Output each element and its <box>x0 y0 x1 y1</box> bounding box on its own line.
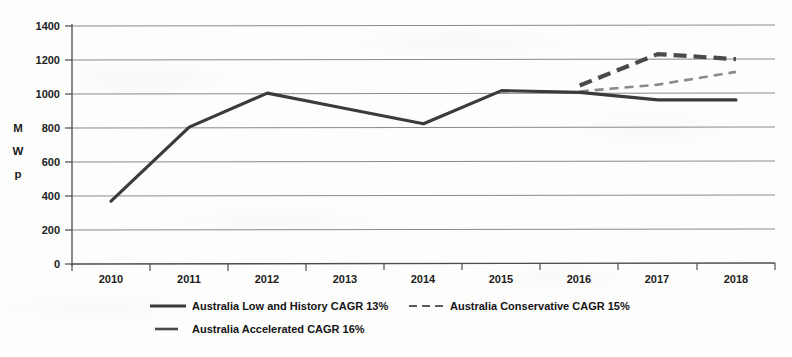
legend-label-australia-conservative[interactable]: Australia Conservative CAGR 15% <box>450 300 630 312</box>
x-tick-label-2011: 2011 <box>177 273 201 285</box>
y-tick-label-600: 600 <box>42 156 60 168</box>
chart-page: 1400 1200 1000 800 600 400 200 0 M W p <box>0 0 792 357</box>
y-axis-title-char-w: W <box>13 145 24 157</box>
x-tick-label-2010: 2010 <box>99 273 123 285</box>
x-axis-tick-labels: 2010 2011 2012 2013 2014 2015 2016 2017 … <box>99 273 748 285</box>
gridline-200 <box>72 229 775 230</box>
legend-label-australia-low-and-history[interactable]: Australia Low and History CAGR 13% <box>192 300 388 312</box>
y-tick-label-1000: 1000 <box>36 88 60 100</box>
gridline-600 <box>72 161 775 162</box>
x-tick-label-2013: 2013 <box>333 273 357 285</box>
x-axis-line <box>72 263 775 264</box>
y-tick-label-200: 200 <box>42 224 60 236</box>
gridline-800 <box>72 127 775 128</box>
y-axis-tick-labels: 1400 1200 1000 800 600 400 200 0 <box>36 20 60 270</box>
x-tick-label-2014: 2014 <box>411 273 436 285</box>
y-axis-title: M W p <box>13 122 24 180</box>
x-tick-label-2016: 2016 <box>567 273 591 285</box>
y-tick-label-800: 800 <box>42 122 60 134</box>
y-axis-title-char-p: p <box>14 168 21 180</box>
gridline-1200 <box>72 59 775 60</box>
x-tick-label-2017: 2017 <box>645 273 669 285</box>
y-axis-ticks <box>65 26 72 264</box>
y-tick-label-1400: 1400 <box>36 20 60 32</box>
gridline-400 <box>72 195 775 196</box>
y-tick-label-1200: 1200 <box>36 54 60 66</box>
x-tick-label-2018: 2018 <box>724 273 748 285</box>
y-tick-label-0: 0 <box>54 258 60 270</box>
chart-legend: Australia Low and History CAGR 13% Austr… <box>150 300 630 335</box>
line-chart: 1400 1200 1000 800 600 400 200 0 M W p <box>0 0 792 357</box>
series-line-australia-low-and-history <box>111 91 736 202</box>
y-tick-label-400: 400 <box>42 190 60 202</box>
gridline-1400 <box>72 25 775 26</box>
y-axis-title-char-m: M <box>13 122 23 134</box>
grid-lines <box>72 25 775 230</box>
x-tick-label-2015: 2015 <box>489 273 513 285</box>
gridline-1000 <box>72 93 775 94</box>
legend-label-australia-accelerated[interactable]: Australia Accelerated CAGR 16% <box>192 323 365 335</box>
x-tick-label-2012: 2012 <box>255 273 279 285</box>
